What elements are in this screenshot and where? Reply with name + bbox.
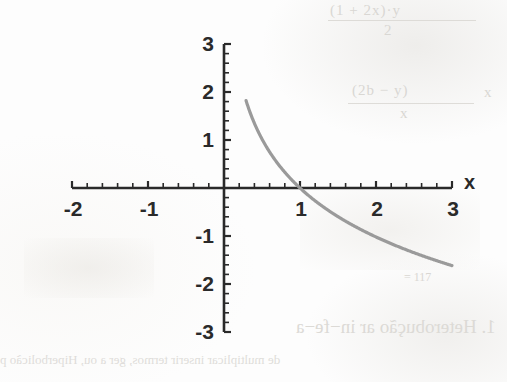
y-tick-label: 2 — [182, 81, 214, 102]
axes — [72, 44, 452, 332]
x-tick-label: -2 — [61, 198, 85, 219]
y-tick-label: 3 — [182, 33, 214, 54]
x-tick-label: -1 — [137, 198, 161, 219]
x-tick-label: 3 — [441, 198, 465, 219]
x-tick-label: 1 — [289, 198, 313, 219]
y-tick-label: -2 — [182, 273, 214, 294]
x-axis-label: x — [464, 172, 475, 192]
y-tick-label: -1 — [182, 225, 214, 246]
y-tick-label: -3 — [182, 321, 214, 342]
x-tick-label: 2 — [365, 198, 389, 219]
graph-canvas — [0, 0, 507, 382]
scanned-page: (1 + 2x)·y 2 (2b − y) x x = 117 1. Heter… — [0, 0, 507, 382]
y-tick-label: 1 — [182, 129, 214, 150]
